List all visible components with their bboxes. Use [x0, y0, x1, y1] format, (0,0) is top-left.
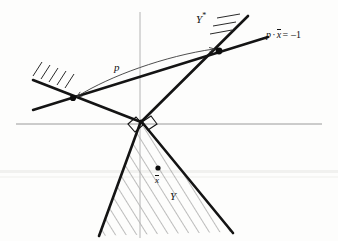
label-point-xbar-text: x: [155, 176, 159, 185]
hyperplane-line: [33, 37, 268, 110]
point-xbar-marker: [155, 165, 160, 170]
label-vector-p: p: [114, 62, 120, 73]
figure-canvas: Y* p·x= –1 p x Y: [0, 0, 338, 241]
label-polar-cone: Y*: [196, 12, 206, 25]
label-hyperplane-xbar: x: [277, 30, 282, 40]
label-cone: Y: [170, 191, 176, 202]
hatch-ticks-upper-left: [33, 62, 74, 88]
label-polar-cone-star: *: [202, 11, 206, 20]
label-hyperplane-rhs: = –1: [281, 29, 302, 40]
label-hyperplane-equation: p·x= –1: [266, 30, 302, 40]
hatch-ticks-upper-right: [210, 14, 240, 34]
label-point-xbar: x: [155, 176, 159, 185]
